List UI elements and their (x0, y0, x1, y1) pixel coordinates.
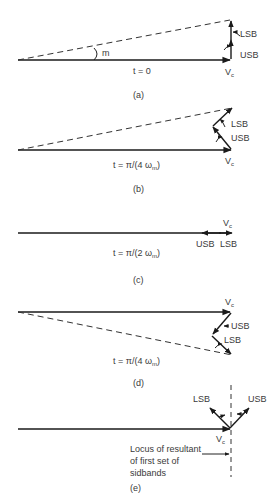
usb-phasor (213, 313, 231, 334)
angle-arc-icon (94, 48, 97, 60)
time-label: t = π/(2 ωm) (113, 248, 160, 259)
carrier-label: Vc (225, 297, 234, 308)
usb-label: USB (248, 394, 267, 404)
locus-text-line-1: Locus of resultant (130, 444, 202, 454)
lsb-phasor (210, 408, 230, 428)
carrier-label: Vc (223, 218, 232, 229)
panel-c: Vc USB LSB t = π/(2 ωm) (c) (18, 218, 237, 285)
lsb-label: LSB (231, 119, 248, 129)
carrier-label: Vc (225, 156, 234, 167)
panel-caption: (c) (133, 275, 144, 285)
rotation-arrow-lsb-icon (220, 119, 225, 127)
usb-phasor (213, 127, 231, 149)
time-label: t = 0 (133, 66, 151, 76)
usb-label: USB (196, 239, 215, 249)
locus-text-line-2: of first set of (130, 456, 180, 466)
rotation-arrow-lsb-icon (219, 415, 225, 417)
lsb-label: LSB (240, 29, 257, 39)
time-label: t = π/(4 ωm) (113, 160, 160, 171)
panel-a: m LSB USB Vc t = 0 (a) (18, 20, 259, 100)
resultant-phasor (18, 108, 232, 150)
usb-label: USB (231, 133, 250, 143)
lsb-label: LSB (220, 239, 237, 249)
carrier-label: Vc (225, 67, 234, 78)
usb-label: USB (231, 321, 250, 331)
angle-label: m (102, 48, 110, 58)
resultant-phasor (18, 20, 230, 60)
panel-caption: (a) (133, 90, 144, 100)
resultant-phasor (18, 312, 232, 355)
time-label: t = π/(4 ωm) (113, 356, 160, 367)
phasor-diagram: m LSB USB Vc t = 0 (a) LSB USB Vc t = π/… (0, 0, 278, 503)
panel-caption: (d) (133, 378, 144, 388)
rotation-arrow-usb-icon (224, 46, 231, 50)
usb-phasor (230, 408, 249, 428)
rotation-arrow-lsb-icon (233, 32, 240, 36)
panel-b: LSB USB Vc t = π/(4 ωm) (b) (18, 108, 250, 194)
locus-text-line-3: sidbands (130, 468, 167, 478)
panel-caption: (b) (133, 184, 144, 194)
usb-label: USB (240, 50, 259, 60)
panel-e: LSB USB Vc Locus of resultant of first s… (18, 385, 267, 493)
panel-d: Vc USB LSB t = π/(4 ωm) (d) (18, 297, 250, 388)
carrier-label: Vc (216, 434, 225, 445)
lsb-label: LSB (224, 335, 241, 345)
lsb-label: LSB (193, 394, 210, 404)
panel-caption: (e) (130, 483, 141, 493)
